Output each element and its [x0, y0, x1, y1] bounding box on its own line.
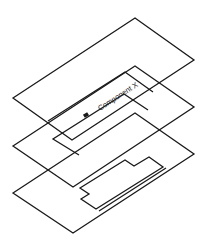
layer-stack-diagram: Component X [0, 0, 207, 245]
middle-layer-plane [13, 66, 194, 187]
component-x-label: Component X [96, 80, 139, 113]
top-layer-plane [13, 18, 194, 140]
bottom-layer-outline-inner [99, 168, 166, 211]
